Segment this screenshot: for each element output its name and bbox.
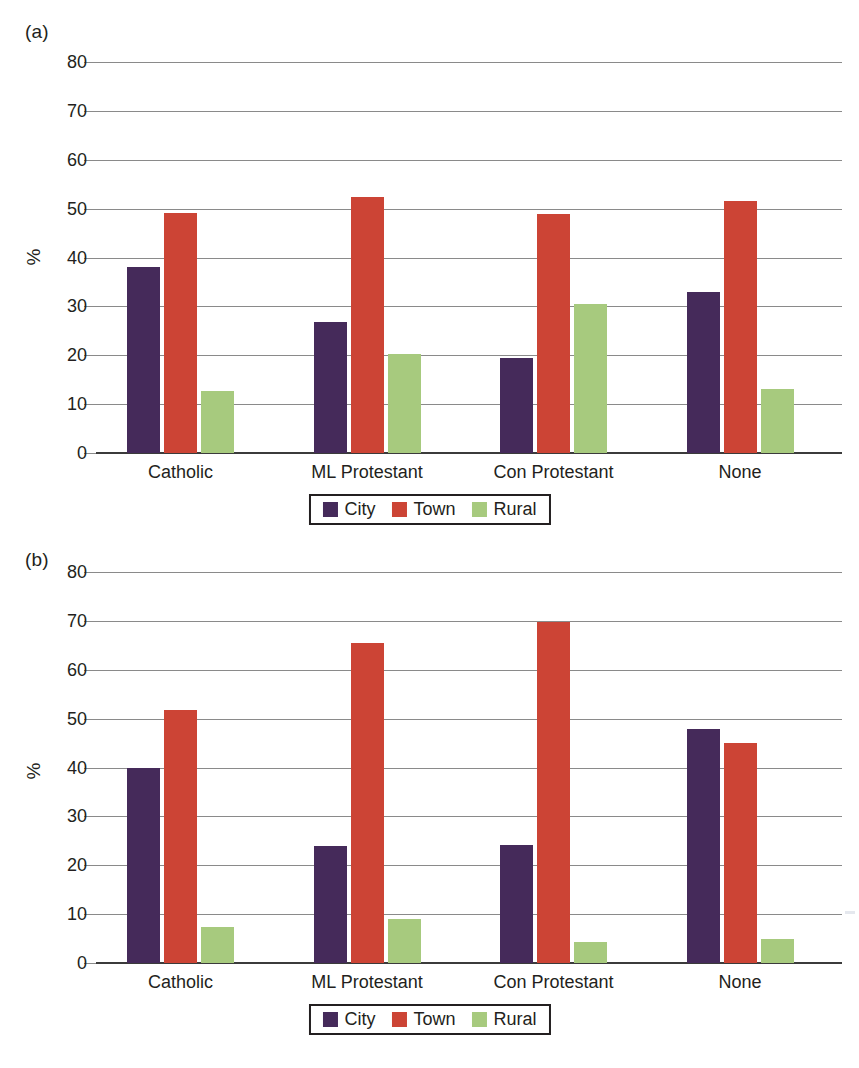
bar	[761, 939, 794, 963]
legend-a: CityTownRural	[308, 494, 550, 525]
bar	[164, 213, 197, 453]
legend-label: City	[344, 500, 375, 518]
bar	[724, 743, 757, 963]
x-tick-label: None	[718, 972, 761, 993]
y-tick-label: 10	[67, 905, 87, 923]
legend-swatch-icon	[391, 502, 406, 517]
y-tick-label: 50	[67, 200, 87, 218]
bar	[351, 197, 384, 453]
bar	[761, 389, 794, 454]
bar	[314, 322, 347, 453]
plot-area-a: 01020304050607080	[96, 62, 842, 453]
legend-swatch-icon	[472, 1012, 487, 1027]
bar	[687, 292, 720, 453]
legend-item[interactable]: Town	[391, 1010, 455, 1028]
bar	[687, 729, 720, 963]
y-tick-label: 70	[67, 102, 87, 120]
legend-b: CityTownRural	[308, 1004, 550, 1035]
y-axis-title-b: %	[23, 762, 45, 780]
bar	[127, 267, 160, 453]
bar	[388, 919, 421, 963]
legend-swatch-icon	[322, 1012, 337, 1027]
x-tick-label: ML Protestant	[311, 462, 422, 483]
legend-label: City	[344, 1010, 375, 1028]
panel-a-label: (a)	[25, 21, 49, 43]
bar	[574, 942, 607, 963]
bar	[201, 927, 234, 963]
bar	[537, 214, 570, 453]
y-tick-label: 70	[67, 612, 87, 630]
y-tick-label: 0	[77, 954, 87, 972]
bar	[164, 710, 197, 963]
bar	[314, 846, 347, 963]
bars-b	[96, 572, 842, 963]
bar	[127, 768, 160, 964]
y-tick-label: 10	[67, 395, 87, 413]
y-tick-label: 30	[67, 807, 87, 825]
panel-b-label: (b)	[25, 549, 49, 571]
legend-item[interactable]: Rural	[472, 500, 537, 518]
y-tick-label: 0	[77, 444, 87, 462]
y-tick-label: 50	[67, 710, 87, 728]
x-tick-label: Con Protestant	[493, 972, 613, 993]
x-tick-label: Catholic	[148, 462, 213, 483]
bar	[574, 304, 607, 453]
legend-label: Town	[413, 500, 455, 518]
bar	[724, 201, 757, 453]
y-tick-label: 80	[67, 563, 87, 581]
bar	[201, 391, 234, 453]
bar	[351, 643, 384, 963]
legend-item[interactable]: City	[322, 1010, 375, 1028]
y-tick-label: 30	[67, 297, 87, 315]
bar	[388, 354, 421, 453]
chart-panel-a: (a) % 01020304050607080 CatholicML Prote…	[0, 0, 859, 530]
y-axis-title-a: %	[23, 248, 45, 266]
bar	[500, 845, 533, 963]
y-tick-label: 20	[67, 856, 87, 874]
legend-item[interactable]: City	[322, 500, 375, 518]
bars-a	[96, 62, 842, 453]
bar	[500, 358, 533, 453]
x-tick-label: ML Protestant	[311, 972, 422, 993]
y-tick-label: 60	[67, 151, 87, 169]
legend-label: Rural	[494, 1010, 537, 1028]
y-tick-label: 40	[67, 759, 87, 777]
x-tick-label: Catholic	[148, 972, 213, 993]
x-tick-label: None	[718, 462, 761, 483]
legend-label: Town	[413, 1010, 455, 1028]
bar	[537, 622, 570, 963]
legend-label: Rural	[494, 500, 537, 518]
y-tick-label: 80	[67, 53, 87, 71]
legend-swatch-icon	[472, 502, 487, 517]
chart-panel-b: (b) % 01020304050607080 CatholicML Prote…	[0, 530, 859, 1068]
y-tick-label: 60	[67, 661, 87, 679]
x-tick-label: Con Protestant	[493, 462, 613, 483]
y-tick-label: 20	[67, 346, 87, 364]
plot-area-b: 01020304050607080	[96, 572, 842, 963]
legend-item[interactable]: Rural	[472, 1010, 537, 1028]
scan-speck	[845, 911, 855, 914]
legend-item[interactable]: Town	[391, 500, 455, 518]
legend-swatch-icon	[391, 1012, 406, 1027]
legend-swatch-icon	[322, 502, 337, 517]
y-tick-label: 40	[67, 249, 87, 267]
